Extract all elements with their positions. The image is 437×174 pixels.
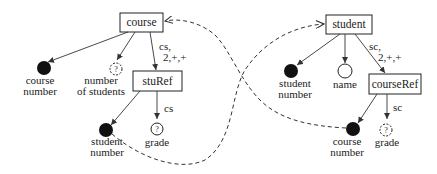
edge-label-cardinality: 2,+,+: [163, 51, 186, 63]
optional-symbol: ?: [114, 65, 118, 74]
label-student-number-2: number: [90, 146, 124, 158]
label-grade-right: grade: [375, 136, 400, 148]
edge-student-to-student-number: [297, 34, 340, 65]
edge-course-to-stuRef: [150, 32, 156, 70]
node-course-label: course: [126, 16, 156, 28]
hollow-node-icon: [338, 64, 352, 78]
label-course-number-2: number: [23, 85, 57, 97]
reference-coursenumber-to-course: [165, 20, 346, 128]
optional-symbol: ?: [155, 125, 159, 134]
node-student: student: [326, 15, 372, 34]
edge-label-cardinality: 2,+,+: [378, 51, 401, 63]
filled-node-icon: [37, 61, 51, 75]
edge-label-grade-sc: sc: [393, 101, 402, 113]
edge-course-to-course-number: [48, 32, 128, 62]
edge-courseRef-to-course-number: [358, 94, 377, 123]
optional-symbol: ?: [384, 126, 388, 135]
label-name: name: [333, 78, 357, 90]
label-course-number-2: number: [330, 146, 364, 158]
node-stuRef: stuRef: [133, 71, 182, 91]
filled-node-icon: [346, 122, 360, 136]
node-student-label: student: [332, 18, 366, 30]
filled-node-icon: [284, 64, 298, 78]
edge-label-grade-cs: cs: [164, 102, 173, 114]
edge-course-to-number-of-students: [117, 32, 135, 60]
label-student-number-2: number: [278, 88, 312, 100]
node-courseRef-label: courseRef: [372, 78, 419, 90]
label-number-of-students-2: of students: [77, 85, 125, 97]
label-grade-left: grade: [145, 136, 170, 148]
node-stuRef-label: stuRef: [142, 75, 172, 87]
node-course: course: [120, 13, 163, 32]
node-courseRef: courseRef: [369, 74, 421, 94]
schema-diagram: course cs, 2,+,+ course number ? number …: [0, 0, 437, 174]
